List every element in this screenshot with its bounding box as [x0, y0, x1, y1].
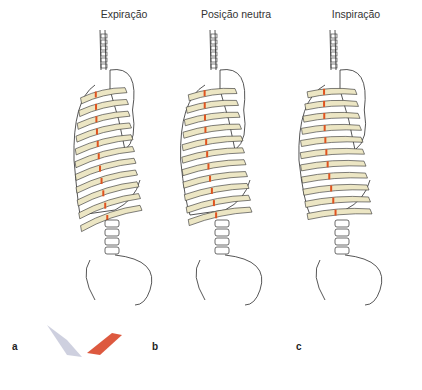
rib: [301, 160, 366, 170]
ribcage-neutral-illustration: [165, 30, 285, 280]
vertebra: [331, 40, 337, 44]
costal-cartilage-mark: [209, 176, 211, 182]
lumbar-vertebra: [105, 220, 119, 227]
costal-cartilage-mark: [327, 161, 329, 167]
costal-cartilage-mark: [323, 113, 325, 119]
title-neutral: Posição neutra: [176, 8, 296, 20]
lumbar-vertebra: [215, 247, 229, 254]
costal-cartilage-mark: [204, 115, 206, 121]
costal-cartilage-mark: [204, 90, 206, 96]
lumbar-vertebra: [105, 238, 119, 245]
rib: [305, 196, 371, 207]
costal-cartilage-mark: [96, 129, 98, 135]
costal-cartilage-mark: [211, 188, 213, 194]
lumbar-vertebra: [335, 247, 349, 254]
costal-cartilage-mark: [323, 101, 325, 107]
rib: [303, 184, 369, 195]
rib: [307, 208, 372, 219]
costal-cartilage-mark: [330, 185, 332, 191]
vertebra: [211, 52, 217, 56]
vertebra: [211, 34, 217, 38]
vertebra: [101, 46, 107, 50]
rib-panel-a-illustration: [22, 285, 142, 385]
title-expiration: Expiração: [64, 8, 184, 20]
vertebra: [101, 52, 107, 56]
costal-cartilage-mark: [328, 173, 330, 179]
costal-cartilage-mark: [102, 190, 104, 196]
costal-cartilage-mark: [332, 198, 334, 204]
ribcage-inspiration-illustration: [285, 30, 410, 280]
vertebra: [211, 46, 217, 50]
rib-panel-b-illustration: [162, 285, 282, 385]
panel-label-a: a: [12, 341, 18, 352]
costal-cartilage-mark: [324, 137, 326, 143]
costal-cartilage-mark: [215, 212, 217, 218]
vertebra: [101, 34, 107, 38]
intercostal-muscle: [87, 333, 122, 355]
costal-cartilage-mark: [325, 149, 327, 155]
lumbar-vertebra: [335, 238, 349, 245]
costal-cartilage-mark: [95, 92, 97, 98]
costal-cartilage-mark: [206, 151, 208, 157]
vertebra: [211, 40, 217, 44]
lumbar-vertebra: [335, 229, 349, 236]
costal-cartilage-mark: [99, 166, 101, 172]
costal-cartilage-mark: [335, 210, 337, 216]
rib-panel-c-illustration: [305, 285, 422, 385]
costal-cartilage-mark: [204, 102, 206, 108]
costal-cartilage-mark: [97, 141, 99, 147]
rib: [301, 172, 367, 183]
costal-cartilage-mark: [98, 153, 100, 159]
panel-label-c: c: [296, 341, 302, 352]
rib: [301, 136, 363, 146]
vertebra: [331, 34, 337, 38]
costal-cartilage-mark: [204, 127, 206, 133]
lumbar-vertebra: [215, 220, 229, 227]
vertebra: [101, 40, 107, 44]
panel-label-b: b: [152, 341, 158, 352]
lumbar-vertebra: [105, 247, 119, 254]
intercostal-muscle: [47, 325, 82, 357]
costal-cartilage-mark: [104, 203, 106, 209]
costal-cartilage-mark: [95, 116, 97, 122]
lumbar-vertebra: [105, 229, 119, 236]
lumbar-vertebra: [215, 229, 229, 236]
vertebra: [331, 52, 337, 56]
costal-cartilage-mark: [205, 139, 207, 145]
ribcage-expiration-illustration: [55, 30, 175, 280]
lumbar-vertebra: [335, 220, 349, 227]
costal-cartilage-mark: [213, 200, 215, 206]
title-inspiration: Inspiração: [296, 8, 416, 20]
lumbar-vertebra: [215, 238, 229, 245]
rib: [300, 148, 364, 158]
costal-cartilage-mark: [324, 125, 326, 131]
costal-cartilage-mark: [101, 178, 103, 184]
costal-cartilage-mark: [323, 89, 325, 95]
vertebra: [331, 46, 337, 50]
costal-cartilage-mark: [207, 163, 209, 169]
costal-cartilage-mark: [95, 104, 97, 110]
panel-group: [47, 325, 122, 357]
